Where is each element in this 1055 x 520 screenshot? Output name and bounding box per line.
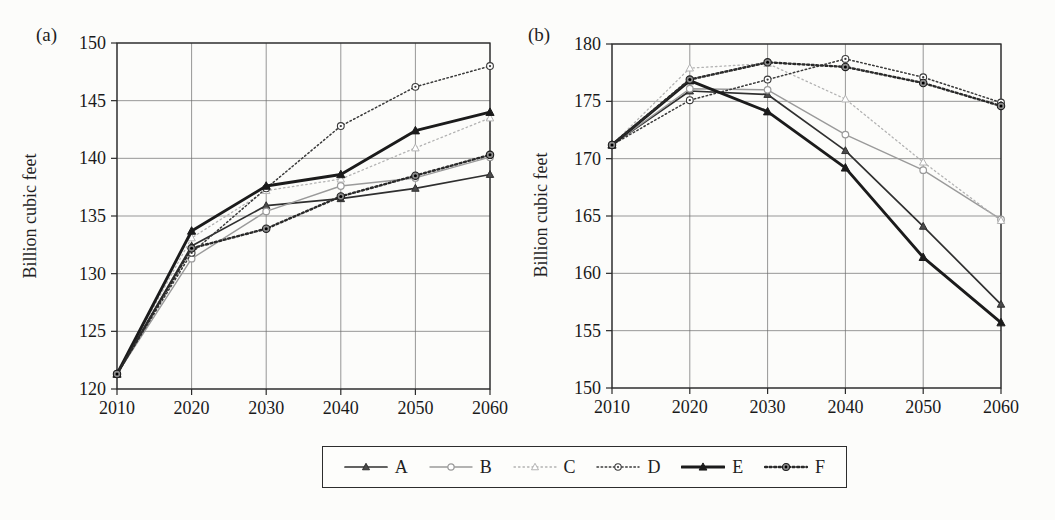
legend-line-f bbox=[764, 460, 808, 474]
legend-sample-c bbox=[513, 460, 557, 474]
series-C bbox=[113, 114, 493, 377]
panel-label-b: (b) bbox=[528, 24, 550, 46]
x-tick-label: 2040 bbox=[827, 397, 863, 417]
series-D bbox=[609, 56, 1005, 149]
series-B bbox=[114, 154, 494, 377]
legend-line-c bbox=[513, 460, 557, 474]
chart-a: 1201251301351401451502010202020302040205… bbox=[79, 33, 508, 418]
x-tick-label: 2010 bbox=[594, 397, 630, 417]
legend-line-b bbox=[429, 460, 473, 474]
legend-label-a: A bbox=[395, 457, 408, 478]
y-tick-label: 170 bbox=[574, 149, 601, 169]
y-tick-label: 120 bbox=[79, 379, 106, 399]
y-tick-label: 135 bbox=[79, 206, 106, 226]
x-tick-label: 2030 bbox=[248, 398, 284, 418]
y-tick-label: 155 bbox=[574, 321, 601, 341]
legend-item-f: F bbox=[764, 457, 825, 478]
series-E bbox=[608, 76, 1005, 325]
y-tick-label: 125 bbox=[79, 321, 106, 341]
series-F bbox=[608, 59, 1004, 149]
legend-sample-d bbox=[596, 460, 640, 474]
legend-label-b: B bbox=[480, 457, 492, 478]
x-tick-label: 2050 bbox=[905, 397, 941, 417]
y-tick-label: 150 bbox=[79, 33, 106, 53]
y-tick-label: 165 bbox=[574, 206, 601, 226]
y-tick-label: 150 bbox=[574, 378, 601, 398]
y-tick-label: 140 bbox=[79, 148, 106, 168]
legend-sample-e bbox=[681, 460, 725, 474]
legend-sample-f bbox=[764, 460, 808, 474]
x-tick-label: 2060 bbox=[983, 397, 1019, 417]
y-tick-label: 180 bbox=[574, 34, 601, 54]
legend-label-c: C bbox=[564, 457, 576, 478]
y-tick-label: 175 bbox=[574, 91, 601, 111]
legend-item-b: B bbox=[429, 457, 492, 478]
panel-label-a: (a) bbox=[36, 24, 57, 46]
legend-box: A B C D E F bbox=[322, 446, 847, 488]
legend-item-a: A bbox=[344, 457, 408, 478]
legend-line-e bbox=[681, 460, 725, 474]
y-axis-label-b: Billion cubic feet bbox=[531, 153, 552, 278]
y-tick-label: 160 bbox=[574, 263, 601, 283]
figure: 1201251301351401451502010202020302040205… bbox=[0, 0, 1055, 520]
legend-sample-a bbox=[344, 460, 388, 474]
x-tick-label: 2050 bbox=[397, 398, 433, 418]
y-tick-label: 145 bbox=[79, 91, 106, 111]
legend-label-e: E bbox=[732, 457, 743, 478]
axis-ticks: 1201251301351401451502010202020302040205… bbox=[79, 33, 508, 418]
legend-line-d bbox=[596, 460, 640, 474]
legend-line-a bbox=[344, 460, 388, 474]
grid bbox=[117, 43, 490, 389]
x-tick-label: 2040 bbox=[323, 398, 359, 418]
legend-item-e: E bbox=[681, 457, 743, 478]
legend-item-d: D bbox=[596, 457, 660, 478]
series-D bbox=[114, 63, 494, 378]
legend-sample-b bbox=[429, 460, 473, 474]
x-tick-label: 2060 bbox=[472, 398, 508, 418]
charts-canvas: 1201251301351401451502010202020302040205… bbox=[0, 0, 1055, 520]
x-tick-label: 2030 bbox=[750, 397, 786, 417]
legend-label-d: D bbox=[647, 457, 660, 478]
series-E bbox=[113, 108, 494, 377]
x-tick-label: 2010 bbox=[99, 398, 135, 418]
y-axis-label-a: Billion cubic feet bbox=[20, 154, 41, 279]
legend-item-c: C bbox=[513, 457, 576, 478]
legend-label-f: F bbox=[815, 457, 825, 478]
chart-b: 1501551601651701751802010202020302040205… bbox=[574, 34, 1019, 417]
y-tick-label: 130 bbox=[79, 264, 106, 284]
x-tick-label: 2020 bbox=[174, 398, 210, 418]
x-tick-label: 2020 bbox=[672, 397, 708, 417]
